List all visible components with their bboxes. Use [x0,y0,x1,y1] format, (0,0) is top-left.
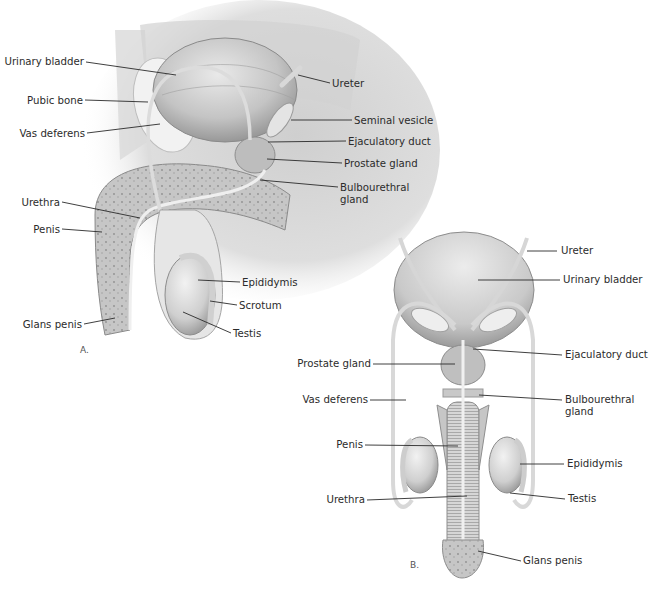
label-urethra: Urethra [21,197,60,208]
label-b-vas-deferens: Vas deferens [302,394,368,405]
label-b-glans-penis: Glans penis [523,555,582,566]
label-seminal-vesicle: Seminal vesicle [354,115,433,126]
label-b-prostate-gland: Prostate gland [297,358,371,369]
label-urinary-bladder: Urinary bladder [4,56,84,67]
label-b-urethra: Urethra [326,494,365,505]
label-b-bulbourethral-line1: Bulbourethral [565,394,634,405]
crus-right [479,405,489,470]
label-b-ureter: Ureter [561,245,594,256]
panel-a-marker: A. [80,345,89,355]
panel-a-illustration [80,0,440,339]
label-ejaculatory-duct: Ejaculatory duct [348,136,431,147]
label-b-penis: Penis [336,439,363,450]
crus-left [437,405,447,470]
panel-b-marker: B. [410,560,419,570]
label-b-bulbourethral-gland: Bulbourethral gland [565,394,638,417]
label-glans-penis: Glans penis [23,319,82,330]
label-epididymis: Epididymis [242,277,298,288]
label-b-bulbourethral-line2: gland [565,406,593,417]
anatomy-figure: Urinary bladder Pubic bone Vas deferens … [0,0,652,601]
label-b-ejaculatory-duct: Ejaculatory duct [565,349,648,360]
label-pubic-bone: Pubic bone [27,95,83,106]
label-testis: Testis [232,328,261,339]
urinary-bladder-b [394,232,534,348]
glans-penis-b [442,540,483,578]
panel-b-illustration [393,232,534,578]
label-scrotum: Scrotum [239,300,282,311]
label-vas-deferens: Vas deferens [19,128,85,139]
label-penis: Penis [33,224,60,235]
label-b-urinary-bladder: Urinary bladder [563,274,643,285]
label-prostate-gland: Prostate gland [344,158,418,169]
label-bulbourethral-line2: gland [340,194,368,205]
label-b-testis: Testis [567,493,596,504]
label-bulbourethral-line1: Bulbourethral [340,182,409,193]
label-ureter: Ureter [332,78,365,89]
label-b-epididymis: Epididymis [567,458,623,469]
